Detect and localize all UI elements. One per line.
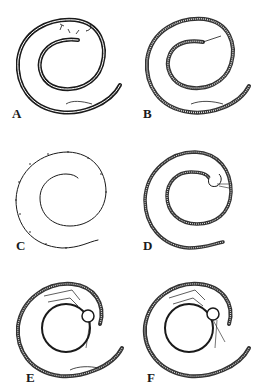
panel-label: A [12,106,21,122]
panel-f: F [131,260,262,392]
panel-label: D [143,238,152,254]
panel-label: E [26,370,35,386]
panel-label: F [147,370,155,386]
panel-e: E [0,260,131,392]
panel-label: B [143,106,152,122]
panel-d: D [131,130,262,260]
spiral-illustration-e [0,260,131,392]
panel-c: C [0,130,131,260]
panel-b: B [131,0,262,130]
panel-label: C [16,238,25,254]
panel-a: A [0,0,131,130]
